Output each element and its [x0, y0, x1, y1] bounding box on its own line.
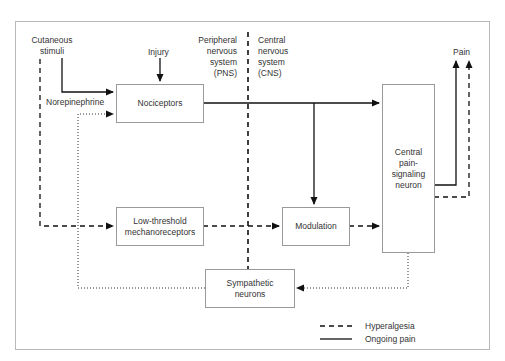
label-cns: Central nervous system (CNS) [258, 35, 288, 79]
label-pns: Peripheral nervous system (PNS) [180, 35, 237, 79]
node-sympathetic-neurons: Sympathetic neurons [205, 269, 295, 308]
node-nociceptors: Nociceptors [116, 84, 204, 123]
edge-central-pain-dashed [434, 61, 469, 197]
node-central-pain-signaling-neuron: Central pain- signaling neuron [382, 84, 435, 253]
node-modulation: Modulation [282, 207, 350, 246]
label-norepinephrine: Norepinephrine [46, 97, 104, 108]
edge-central-sympathetic [297, 253, 408, 288]
label-injury: Injury [148, 47, 169, 58]
label-pain: Pain [453, 47, 470, 58]
legend-ongoing-pain: Ongoing pain [365, 334, 416, 345]
legend-hyperalgesia: Hyperalgesia [365, 321, 415, 332]
edge-cutaneous-nociceptors [62, 58, 113, 92]
label-cutaneous-stimuli: Cutaneous stimuli [24, 35, 80, 57]
node-low-threshold-mechanoreceptors: Low-threshold mechanoreceptors [116, 207, 204, 246]
edge-central-pain-solid [434, 61, 456, 185]
edge-cutaneous-lowthreshold [40, 59, 113, 226]
edge-norepinephrine-nociceptors [78, 114, 205, 288]
